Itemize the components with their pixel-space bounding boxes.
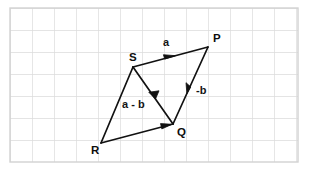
vector-label-a-minus-b: a - b xyxy=(122,98,145,110)
vector-label-a: a xyxy=(163,36,170,48)
vertex-label-P: P xyxy=(213,32,221,44)
vertex-label-R: R xyxy=(91,144,100,156)
vector-figure: P Q R S a -b a - b xyxy=(0,0,310,170)
arrowhead-SP xyxy=(163,54,175,59)
vertex-label-Q: Q xyxy=(177,126,186,138)
arrowhead-SQ xyxy=(149,91,159,99)
arrowhead-RQ xyxy=(161,124,173,129)
vertex-label-S: S xyxy=(129,51,137,63)
vector-diagram-canvas: P Q R S a -b a - b xyxy=(0,0,310,170)
vector-label-minus-b: -b xyxy=(196,84,207,96)
